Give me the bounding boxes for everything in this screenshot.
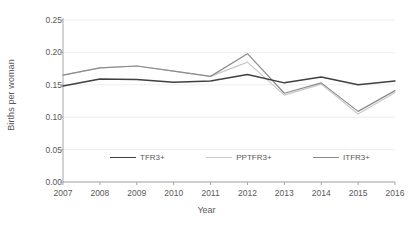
plot-area (0, 0, 413, 236)
line-chart-figure: Births per woman 0.000.050.100.150.200.2… (0, 0, 413, 236)
legend-label: TFR3+ (140, 153, 165, 162)
legend-line-swatch (206, 157, 232, 158)
legend-item-pptfr3[interactable]: PPTFR3+ (206, 153, 271, 162)
legend-item-tfr3[interactable]: TFR3+ (110, 153, 165, 162)
legend-item-itfr3[interactable]: ITFR3+ (313, 153, 370, 162)
legend-line-swatch (110, 157, 136, 158)
x-axis-title-text: Year (197, 205, 215, 215)
series-line-tfr3 (63, 74, 395, 86)
legend-label: ITFR3+ (343, 153, 370, 162)
x-axis-title: Year (0, 205, 413, 215)
legend-label: PPTFR3+ (236, 153, 271, 162)
chart-legend: TFR3+PPTFR3+ITFR3+ (110, 150, 370, 164)
series-line-pptfr3 (63, 62, 395, 114)
series-lines (63, 54, 395, 114)
legend-line-swatch (313, 157, 339, 158)
